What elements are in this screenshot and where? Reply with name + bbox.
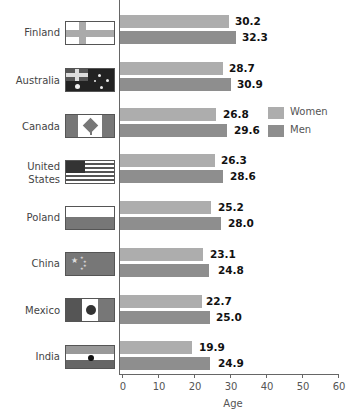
australia-flag-icon — [65, 68, 115, 92]
country-label-mexico: Mexico — [0, 304, 60, 317]
bar-poland-women — [120, 201, 211, 214]
x-tick-label: 10 — [144, 381, 174, 392]
value-china-men: 24.8 — [218, 264, 244, 277]
country-label-canada: Canada — [0, 120, 60, 133]
country-label-india: India — [0, 350, 60, 363]
x-tick — [302, 374, 303, 378]
x-tick — [230, 374, 231, 378]
value-australia-men: 30.9 — [237, 78, 263, 91]
x-tick — [266, 374, 267, 378]
x-tick-label: 20 — [180, 381, 210, 392]
x-tick — [122, 374, 123, 378]
bar-canada-men — [120, 124, 227, 137]
country-label-china: China — [0, 257, 60, 270]
x-axis — [119, 374, 339, 375]
x-axis-title: Age — [218, 398, 248, 409]
x-tick-label: 40 — [252, 381, 282, 392]
bar-united-states-women — [120, 154, 215, 167]
value-finland-women: 30.2 — [235, 15, 261, 28]
x-tick-label: 50 — [288, 381, 318, 392]
country-label-united-states-line2: States — [0, 173, 60, 186]
x-tick — [158, 374, 159, 378]
bar-canada-women — [120, 108, 216, 121]
bar-poland-men — [120, 217, 221, 230]
country-label-australia: Australia — [0, 74, 60, 87]
value-australia-women: 28.7 — [229, 62, 255, 75]
bar-united-states-men — [120, 170, 223, 183]
value-mexico-women: 22.7 — [206, 295, 232, 308]
value-poland-women: 25.2 — [218, 201, 244, 214]
bar-finland-women — [120, 15, 229, 28]
value-finland-men: 32.3 — [242, 31, 268, 44]
value-mexico-men: 25.0 — [216, 311, 242, 324]
country-label-poland: Poland — [0, 211, 60, 224]
x-tick-label: 60 — [324, 381, 354, 392]
value-canada-men: 29.6 — [234, 124, 260, 137]
mexico-flag-icon — [65, 298, 115, 322]
legend-label-women: Women — [290, 106, 328, 117]
country-label-finland: Finland — [0, 26, 60, 39]
bar-china-women — [120, 248, 203, 261]
x-tick — [194, 374, 195, 378]
india-flag-icon — [65, 345, 115, 369]
bar-mexico-women — [120, 295, 202, 308]
bar-india-women — [120, 341, 192, 354]
value-china-women: 23.1 — [210, 248, 236, 261]
bar-australia-men — [120, 78, 231, 91]
china-flag-icon: ★ ★ ★ ★ ★ — [65, 252, 115, 276]
poland-flag-icon — [65, 206, 115, 230]
x-tick-label: 0 — [108, 381, 138, 392]
bar-australia-women — [120, 62, 223, 75]
legend-label-men: Men — [290, 124, 311, 135]
country-label-united-states-line1: United — [0, 160, 60, 173]
bar-india-men — [120, 357, 210, 370]
value-india-women: 19.9 — [199, 341, 225, 354]
bar-china-men — [120, 264, 209, 277]
value-india-men: 24.9 — [218, 357, 244, 370]
bar-mexico-men — [120, 311, 210, 324]
value-poland-men: 28.0 — [228, 217, 254, 230]
finland-flag-icon — [65, 21, 115, 45]
legend-swatch-men — [268, 125, 284, 137]
x-tick — [338, 374, 339, 378]
value-canada-women: 26.8 — [223, 108, 249, 121]
value-united-states-women: 26.3 — [221, 154, 247, 167]
legend-swatch-women — [268, 107, 284, 119]
x-tick-label: 30 — [216, 381, 246, 392]
canada-flag-icon — [65, 114, 115, 138]
value-united-states-men: 28.6 — [230, 170, 256, 183]
united-states-flag-icon — [65, 160, 115, 184]
bar-finland-men — [120, 31, 236, 44]
